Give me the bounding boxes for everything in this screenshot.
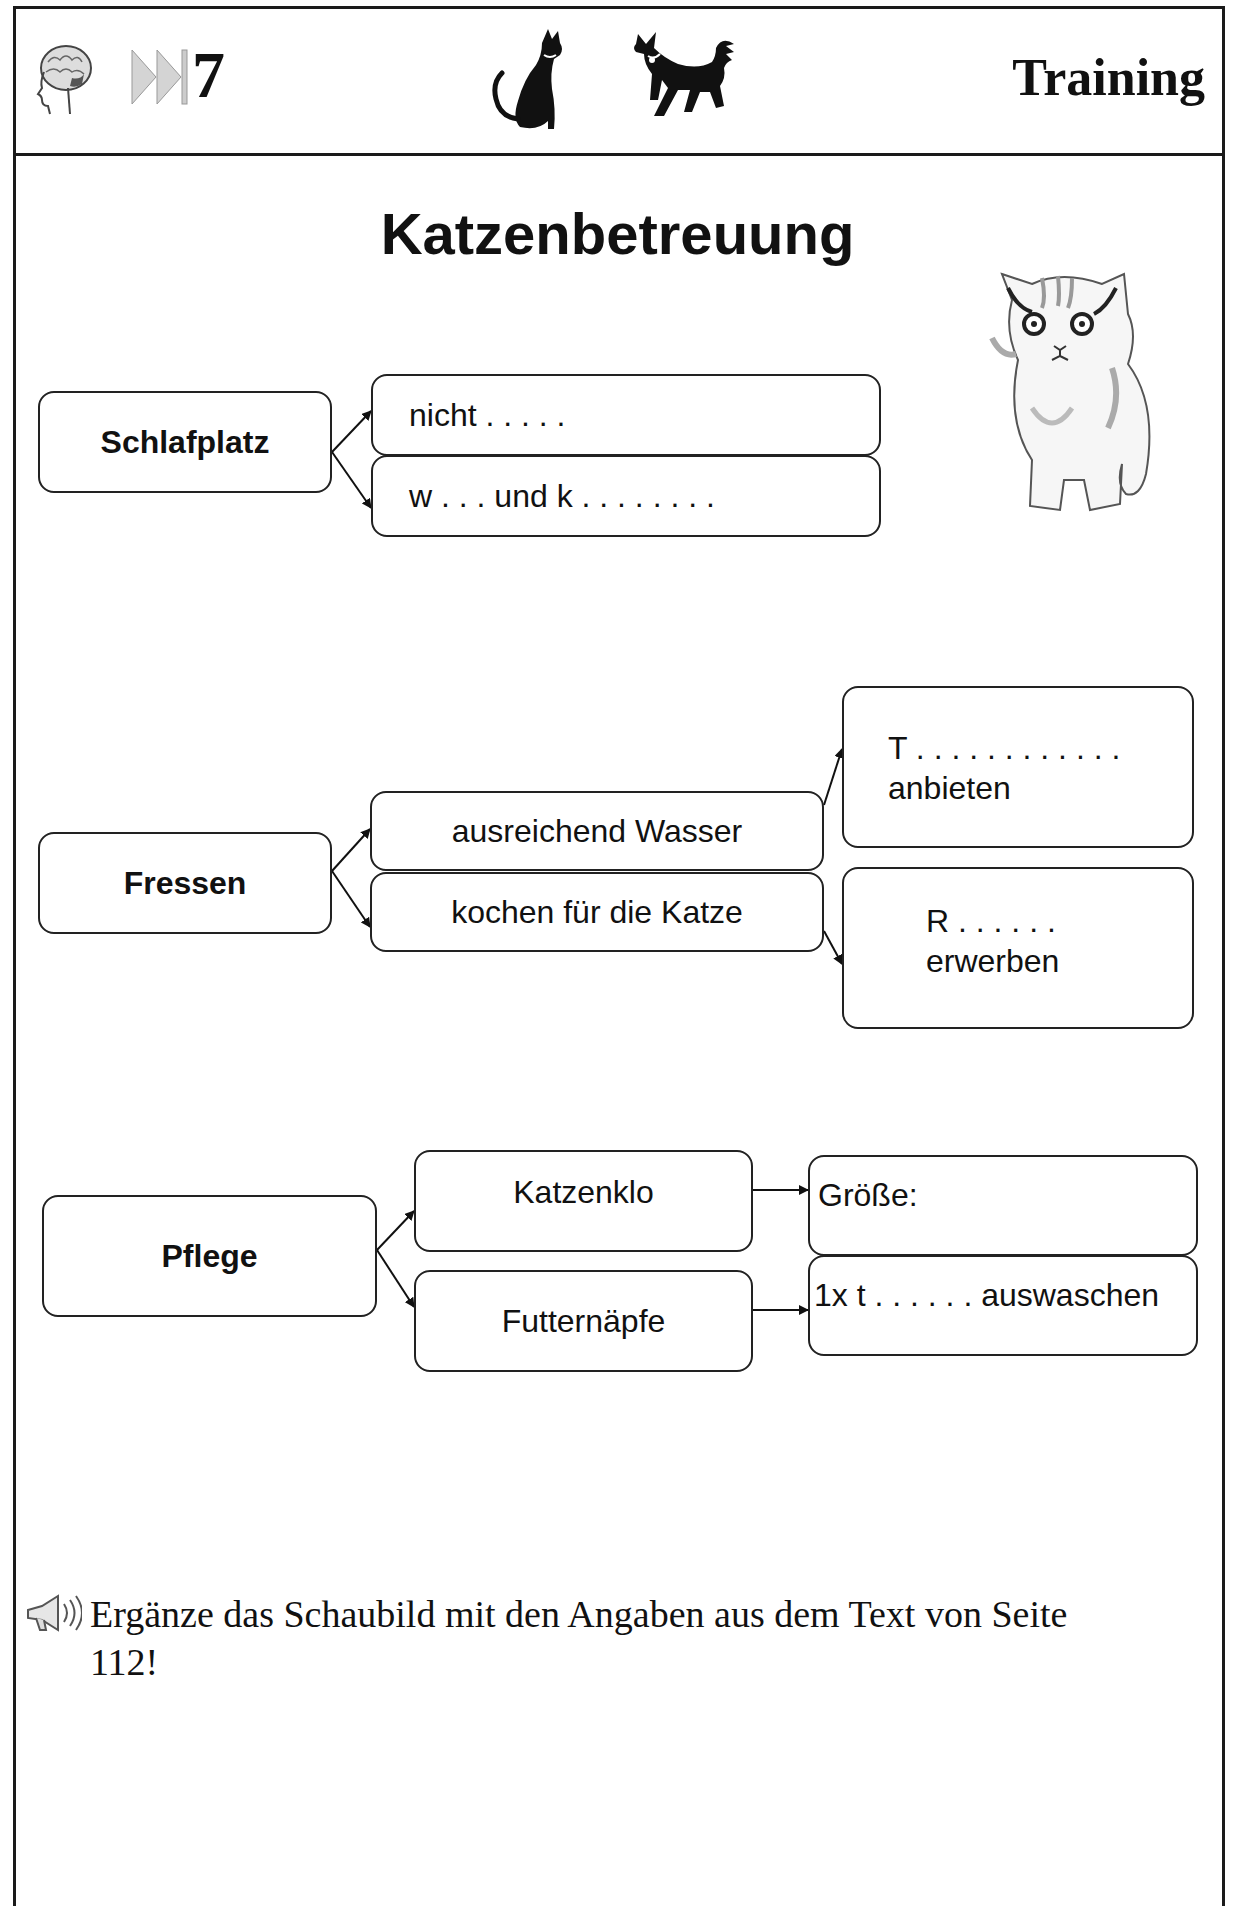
fressen-branch-1: ausreichend Wasser [370, 791, 824, 871]
kitten-illustration [962, 258, 1152, 514]
schlafplatz-branch-1[interactable]: nicht . . . . . [371, 374, 881, 456]
category-pflege: Pflege [42, 1195, 377, 1317]
schlafplatz-branch-2[interactable]: w . . . und k . . . . . . . . [371, 455, 881, 537]
category-label: Pflege [161, 1238, 257, 1275]
pflege-sub-branch-1[interactable]: Größe: [808, 1155, 1198, 1256]
dog-silhouette-icon [628, 30, 738, 126]
page-title: Katzenbetreuung [0, 205, 1235, 263]
pflege-sub-branch-2[interactable]: 1x t . . . . . . auswaschen [808, 1255, 1198, 1356]
pflege-branch-1: Katzenklo [414, 1150, 753, 1252]
worksheet-category: Training [1012, 52, 1205, 104]
branch-text: nicht . . . . . [409, 397, 566, 434]
fast-forward-icon [130, 48, 188, 106]
unit-number: 7 [192, 42, 225, 108]
branch-text: Katzenklo [513, 1174, 654, 1211]
fressen-sub-branch-1[interactable]: T . . . . . . . . . . . . anbieten [842, 686, 1194, 848]
fressen-sub-branch-2[interactable]: R . . . . . . erwerben [842, 867, 1194, 1029]
category-label: Schlafplatz [101, 424, 270, 461]
branch-text: Futternäpfe [502, 1303, 666, 1340]
category-label: Fressen [124, 865, 247, 902]
fressen-branch-2: kochen für die Katze [370, 872, 824, 952]
category-fressen: Fressen [38, 832, 332, 934]
megaphone-icon [24, 1594, 82, 1634]
category-schlafplatz: Schlafplatz [38, 391, 332, 493]
sub-branch-line-2: erwerben [926, 941, 1059, 981]
brain-head-icon [32, 42, 96, 116]
sub-branch-line-2: anbieten [888, 768, 1011, 808]
cat-silhouette-icon [482, 27, 572, 131]
sub-branch-text: Größe: [818, 1177, 918, 1214]
pflege-branch-2: Futternäpfe [414, 1270, 753, 1372]
sub-branch-text: 1x t . . . . . . auswaschen [814, 1277, 1159, 1314]
sub-branch-line-1: T . . . . . . . . . . . . [888, 728, 1120, 768]
instruction-text: Ergänze das Schaubild mit den Angaben au… [90, 1590, 1090, 1686]
branch-text: ausreichend Wasser [452, 813, 743, 850]
branch-text: kochen für die Katze [451, 894, 743, 931]
branch-text: w . . . und k . . . . . . . . [409, 478, 715, 515]
sub-branch-line-1: R . . . . . . [926, 901, 1056, 941]
